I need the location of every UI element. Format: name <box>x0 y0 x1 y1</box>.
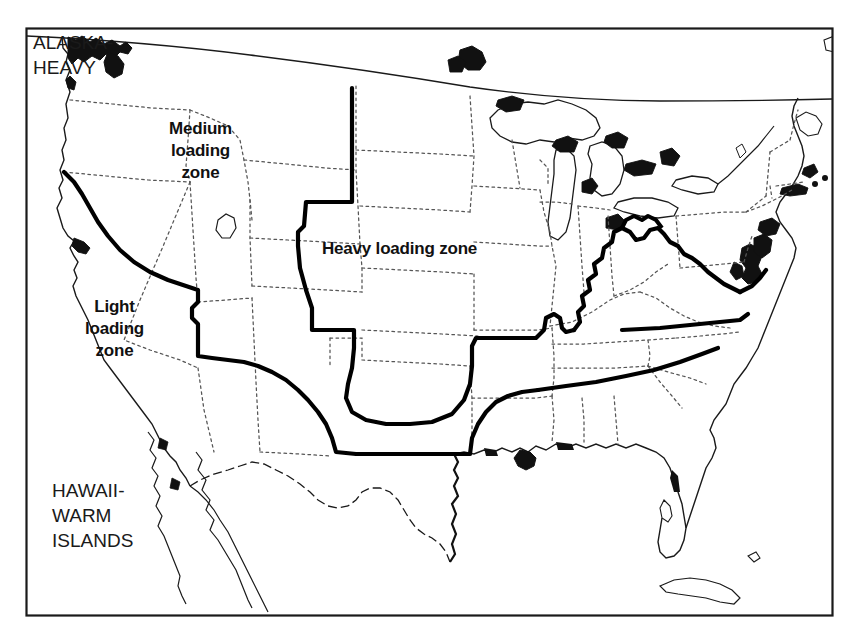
loading-zone-map-figure: ALASKA- HEAVY HAWAII- WARM ISLANDS Mediu… <box>0 0 863 642</box>
hawaii-note-label: HAWAII- WARM ISLANDS <box>52 478 252 553</box>
nantucket-dot-2 <box>822 175 828 181</box>
nantucket-dot-1 <box>812 181 818 187</box>
alaska-note-label: ALASKA- HEAVY <box>33 30 223 80</box>
